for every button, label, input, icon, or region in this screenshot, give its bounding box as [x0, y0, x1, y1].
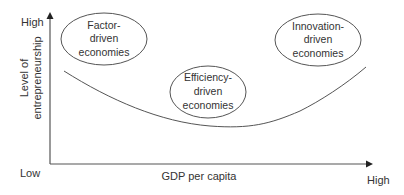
efficiency-driven-line2: driven — [194, 85, 223, 97]
y-axis-high-label: High — [21, 16, 44, 28]
stage-innovation-driven: Innovation- driven economies — [275, 14, 361, 66]
stage-factor-driven: Factor- driven economies — [61, 13, 147, 65]
y-axis-low-label: Low — [20, 167, 40, 179]
innovation-driven-line1: Innovation- — [292, 20, 344, 32]
x-axis-title: GDP per capita — [161, 170, 237, 182]
x-axis-high-label: High — [367, 174, 390, 186]
y-axis-title-line2: entrepreneurship — [31, 36, 43, 119]
y-axis-title-line1: Level of — [18, 58, 30, 97]
innovation-driven-line3: economies — [293, 47, 344, 59]
factor-driven-line1: Factor- — [87, 19, 121, 31]
y-axis-title: Level of entrepreneurship — [18, 36, 43, 119]
stage-efficiency-driven: Efficiency- driven economies — [170, 66, 246, 118]
factor-driven-line2: driven — [90, 32, 119, 44]
y-axis-arrowhead-icon — [47, 12, 54, 19]
efficiency-driven-line1: Efficiency- — [184, 71, 233, 83]
x-axis-arrowhead-icon — [366, 161, 373, 168]
factor-driven-line3: economies — [79, 46, 130, 58]
entrepreneurship-gdp-diagram: High Low Level of entrepreneurship GDP p… — [0, 0, 404, 195]
efficiency-driven-line3: economies — [183, 99, 234, 111]
innovation-driven-line2: driven — [304, 33, 333, 45]
